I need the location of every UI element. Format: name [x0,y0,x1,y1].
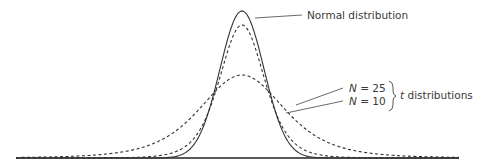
t-distributions-label: t distributions [400,89,473,101]
normal-leader-line [255,15,302,18]
n25-label: N = 25 [349,82,386,94]
n10-label: N = 10 [349,95,386,107]
normal-distribution-label: Normal distribution [307,9,408,21]
t-distribution-n25-curve [16,25,459,158]
n10-leader-line [286,101,343,113]
distribution-diagram: Normal distribution N = 25 N = 10 t dist… [0,0,479,168]
grouping-brace [389,81,396,111]
